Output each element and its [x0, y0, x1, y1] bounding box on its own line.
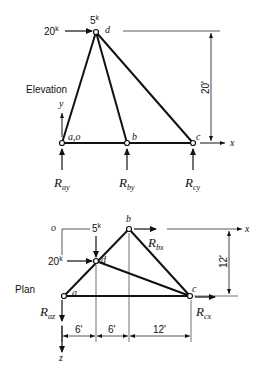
- node-label-d: d: [105, 24, 111, 35]
- origin-label: o: [51, 222, 56, 233]
- depth-dimension-label: 12': [218, 255, 229, 268]
- origin-guide-lines: [62, 229, 90, 255]
- reaction-label-cx: Rcx: [195, 304, 212, 321]
- reaction-label-bx: Rbx: [147, 235, 164, 252]
- plan-node-label-c: c: [192, 283, 197, 294]
- span-label-1: 6': [75, 324, 83, 335]
- x-axis-label: x: [229, 137, 235, 148]
- reaction-label-ay: Ray: [53, 175, 70, 192]
- truss-diagram: 20k 5k d a,o b c Elevation y x 20' Ray R…: [0, 0, 260, 379]
- plan-nodes: [62, 227, 193, 299]
- plan-node-label-b: b: [126, 213, 131, 224]
- span-label-3: 12': [153, 324, 166, 335]
- reaction-label-by: Rby: [118, 175, 135, 192]
- plan-members: [64, 229, 190, 296]
- elevation-title: Elevation: [26, 84, 67, 95]
- span-label-2: 6': [108, 324, 116, 335]
- node-label-c: c: [196, 131, 201, 142]
- plan-title: Plan: [15, 284, 35, 295]
- height-dimension-label: 20': [200, 81, 211, 94]
- plan-x-axis-label: x: [244, 223, 250, 234]
- node-label-a: a,o: [68, 131, 81, 142]
- plan-load-label-20k: 20k: [48, 255, 63, 267]
- elevation-reaction-arrows: [62, 149, 193, 170]
- plan-node-label-a: a: [72, 287, 77, 298]
- z-axis-label: z: [58, 352, 63, 363]
- elevation-members: [62, 32, 193, 143]
- reaction-label-az: Raz: [39, 304, 56, 321]
- load-label-20k: 20k: [44, 25, 59, 37]
- plan-node-label-d: d: [101, 254, 107, 265]
- node-label-b: b: [132, 131, 137, 142]
- elevation-view: 20k 5k d a,o b c Elevation y x 20' Ray R…: [26, 14, 235, 192]
- load-label-5k: 5k: [90, 14, 100, 26]
- y-axis-label: y: [58, 98, 64, 109]
- reaction-label-cy: Rcy: [184, 175, 201, 192]
- plan-view: o b d a c 5k 20k Plan: [15, 213, 250, 363]
- plan-load-label-5k: 5k: [92, 222, 102, 234]
